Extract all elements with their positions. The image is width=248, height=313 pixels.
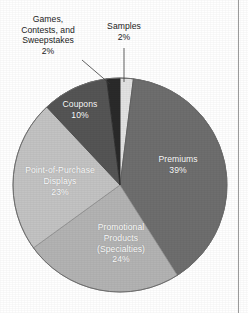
slice-label-coupons: Coupons 10%: [46, 99, 114, 121]
slice-label-premiums: Premiums 39%: [135, 154, 221, 176]
pie-chart-figure: Games, Contests, and Sweepstakes 2% Samp…: [0, 0, 248, 313]
page-vertical-rule: [238, 0, 239, 313]
slice-label-samples: Samples 2%: [93, 21, 155, 42]
slice-label-games-contests-sweepstakes: Games, Contests, and Sweepstakes 2%: [2, 14, 94, 56]
slice-label-promotional-products: Promotional Products (Specialties) 24%: [72, 222, 170, 265]
slice-label-point-of-purchase-displays: Point-of-Purchase Displays 23%: [8, 165, 112, 197]
